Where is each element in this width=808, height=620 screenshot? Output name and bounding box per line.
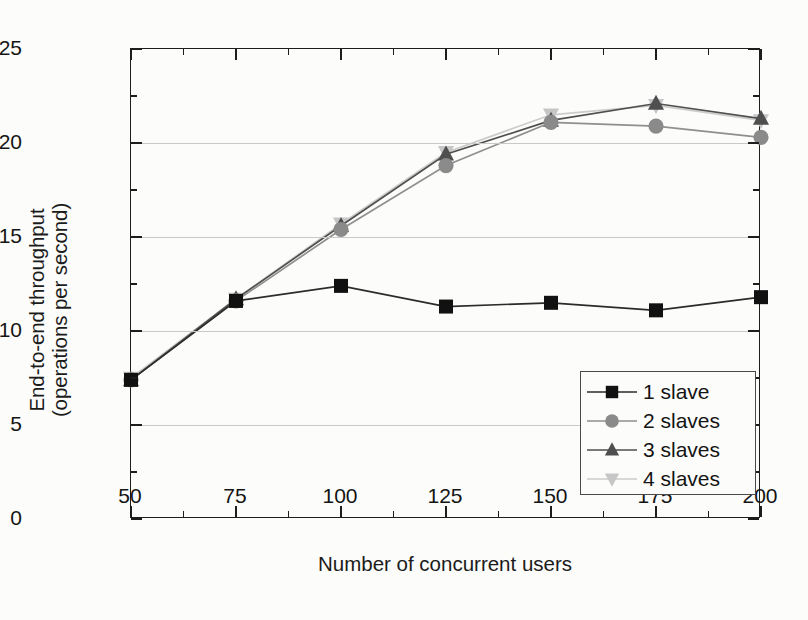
data-point-2 — [438, 158, 453, 173]
y-tick-minor — [131, 377, 137, 379]
y-tick-major — [131, 142, 142, 144]
legend-marker-square-icon — [581, 380, 643, 404]
x-tick-major — [760, 49, 762, 60]
x-tick-label: 150 — [510, 484, 590, 508]
y-tick-major — [131, 424, 142, 426]
x-tick-minor — [603, 49, 605, 55]
y-tick-major — [748, 330, 759, 332]
y-tick-label: 5 — [0, 412, 22, 436]
x-tick-major — [550, 49, 552, 60]
legend-item-1[interactable]: 1 slave — [581, 377, 755, 406]
x-tick-minor — [393, 49, 395, 55]
y-tick-label: 0 — [0, 506, 22, 530]
legend-marker-triangle-up-icon — [581, 438, 643, 462]
x-tick-minor — [498, 49, 500, 55]
data-point-2 — [648, 118, 663, 133]
x-tick-label: 125 — [405, 484, 485, 508]
legend-label: 2 slaves — [643, 410, 720, 431]
x-tick-major — [445, 49, 447, 60]
gridline-y — [131, 331, 759, 332]
x-tick-minor — [393, 511, 395, 517]
y-tick-major — [748, 48, 759, 50]
y-tick-minor — [131, 189, 137, 191]
x-tick-minor — [183, 49, 185, 55]
x-tick-major — [130, 49, 132, 60]
y-tick-major — [748, 236, 759, 238]
x-tick-minor — [498, 511, 500, 517]
y-tick-minor — [131, 471, 137, 473]
x-axis-title: Number of concurrent users — [130, 552, 760, 576]
data-point-1 — [754, 290, 768, 304]
y-tick-minor — [753, 95, 759, 97]
gridline-y — [131, 143, 759, 144]
y-tick-minor — [753, 189, 759, 191]
y-tick-label: 20 — [0, 130, 22, 154]
y-tick-minor — [131, 283, 137, 285]
legend-item-2[interactable]: 2 slaves — [581, 406, 755, 435]
legend-marker-circle-icon — [581, 409, 643, 433]
chart-figure: End-to-end throughput (operations per se… — [0, 0, 808, 620]
data-point-2 — [333, 222, 348, 237]
x-tick-minor — [603, 511, 605, 517]
data-point-1 — [124, 373, 138, 387]
data-point-1 — [544, 296, 558, 310]
legend-marker-triangle-down-icon — [581, 467, 643, 491]
series-line-3 — [131, 104, 761, 380]
gridline-y — [131, 237, 759, 238]
data-point-1 — [439, 300, 453, 314]
y-tick-major — [748, 518, 759, 520]
data-point-2 — [543, 115, 558, 130]
y-axis-title-line2: (operations per second) — [48, 203, 71, 417]
x-tick-minor — [288, 49, 290, 55]
y-tick-major — [131, 330, 142, 332]
legend-label: 1 slave — [643, 381, 710, 402]
x-tick-minor — [183, 511, 185, 517]
y-axis-title-line1: End-to-end throughput — [25, 203, 48, 417]
y-tick-label: 10 — [0, 318, 22, 342]
x-tick-minor — [708, 511, 710, 517]
x-tick-minor — [708, 49, 710, 55]
y-tick-major — [748, 142, 759, 144]
legend-item-4[interactable]: 4 slaves — [581, 464, 755, 493]
y-tick-major — [131, 236, 142, 238]
data-point-1 — [229, 294, 243, 308]
legend-item-3[interactable]: 3 slaves — [581, 435, 755, 464]
y-tick-minor — [753, 283, 759, 285]
data-point-1 — [334, 279, 348, 293]
x-tick-minor — [288, 511, 290, 517]
legend-label: 4 slaves — [643, 468, 720, 489]
x-tick-label: 75 — [195, 484, 275, 508]
y-tick-major — [131, 518, 142, 520]
y-tick-major — [131, 48, 142, 50]
x-tick-label: 100 — [300, 484, 380, 508]
x-tick-major — [235, 49, 237, 60]
y-tick-label: 25 — [0, 36, 22, 60]
x-tick-major — [655, 49, 657, 60]
x-tick-major — [340, 49, 342, 60]
x-tick-label: 50 — [90, 484, 170, 508]
y-tick-label: 15 — [0, 224, 22, 248]
data-point-1 — [649, 303, 663, 317]
legend-label: 3 slaves — [643, 439, 720, 460]
y-tick-minor — [131, 95, 137, 97]
chart-legend: 1 slave2 slaves3 slaves4 slaves — [580, 371, 756, 495]
